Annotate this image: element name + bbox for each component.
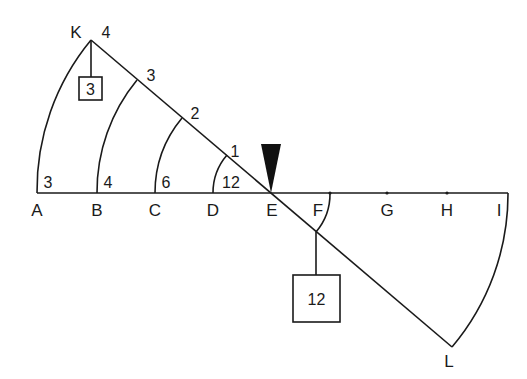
beam-d-number: 1 (231, 143, 240, 160)
weight-k-value: 3 (86, 81, 95, 98)
tick-h (445, 191, 448, 194)
point-e-label: E (266, 201, 277, 220)
fulcrum-triangle-icon (261, 144, 281, 193)
point-d-label: D (207, 201, 219, 220)
tick-f (328, 191, 331, 194)
arc-a-number: 3 (44, 174, 53, 191)
lever-diagram: 3 12 A B C D E F G H I K L 3 4 6 12 4 3 … (0, 0, 527, 379)
arc-b-number: 4 (104, 174, 113, 191)
point-i-label: I (497, 201, 502, 220)
point-b-label: B (91, 201, 102, 220)
arc-d-number: 12 (222, 174, 240, 191)
beam-c-number: 2 (191, 105, 200, 122)
weight-f-value: 12 (308, 291, 326, 308)
tick-g (385, 191, 388, 194)
arc-a-k (37, 40, 91, 193)
point-h-label: H (441, 201, 453, 220)
point-g-label: G (380, 201, 393, 220)
point-a-label: A (31, 201, 43, 220)
beam-k-number: 4 (102, 24, 111, 41)
point-f-label: F (313, 201, 323, 220)
point-l-label: L (444, 352, 453, 371)
point-c-label: C (149, 201, 161, 220)
point-k-label: K (70, 23, 82, 42)
arc-c-number: 6 (162, 174, 171, 191)
beam-b-number: 3 (147, 67, 156, 84)
